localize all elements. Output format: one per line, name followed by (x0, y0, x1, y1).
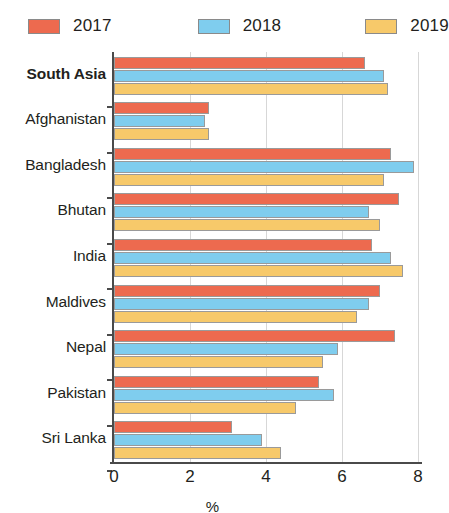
tickmark (107, 243, 112, 245)
legend-label-2018: 2018 (243, 16, 282, 36)
bar (114, 128, 209, 140)
bar (114, 330, 395, 342)
bar-group (114, 52, 418, 98)
category-axis-labels: South AsiaAfghanistanBangladeshBhutanInd… (0, 52, 110, 462)
bar-group (114, 325, 418, 371)
bar (114, 311, 357, 323)
bar (114, 376, 319, 388)
bar-group (114, 143, 418, 189)
bar (114, 402, 296, 414)
x-axis-line (110, 462, 422, 464)
bar (114, 83, 388, 95)
category-label: Bangladesh (0, 156, 106, 174)
category-label: South Asia (0, 65, 106, 83)
bar (114, 206, 369, 218)
bar (114, 252, 391, 264)
bar (114, 285, 380, 297)
legend-item-2017: 2017 (28, 16, 112, 36)
y-axis-line (112, 52, 114, 463)
tickmark (107, 379, 112, 381)
tickmark (107, 334, 112, 336)
bar-group (114, 371, 418, 417)
bar (114, 102, 209, 114)
chart-legend: 2017 2018 2019 (0, 0, 425, 52)
bar (114, 298, 369, 310)
tickmark (107, 152, 112, 154)
bar (114, 389, 334, 401)
tickmark (107, 106, 112, 108)
bar (114, 115, 205, 127)
bar-group (114, 189, 418, 235)
bar (114, 421, 232, 433)
bar (114, 57, 365, 69)
bar (114, 239, 372, 251)
x-axis-tick-labels: 02468 (0, 467, 425, 497)
category-label: Maldives (0, 293, 106, 311)
bar (114, 161, 414, 173)
legend-swatch-2018 (198, 19, 230, 34)
category-label: Pakistan (0, 384, 106, 402)
bar (114, 447, 281, 459)
tickmark (107, 197, 112, 199)
bar (114, 70, 384, 82)
legend-label-2019: 2019 (410, 16, 449, 36)
x-tick-label: 6 (337, 467, 346, 487)
category-label: Afghanistan (0, 110, 106, 128)
bar (114, 174, 384, 186)
bar (114, 356, 323, 368)
x-tick-label: 2 (185, 467, 194, 487)
x-tick-label: 8 (413, 467, 422, 487)
x-axis-title: % (0, 498, 425, 513)
category-label: Bhutan (0, 201, 106, 219)
tickmark (107, 288, 112, 290)
bar (114, 148, 391, 160)
tickmark (107, 425, 112, 427)
bar (114, 434, 262, 446)
x-tick-label: 4 (261, 467, 270, 487)
legend-item-2019: 2019 (365, 16, 449, 36)
gridline (418, 52, 419, 462)
category-label: Sri Lanka (0, 429, 106, 447)
category-label: Nepal (0, 338, 106, 356)
bar-group (114, 234, 418, 280)
legend-swatch-2019 (365, 19, 397, 34)
bar (114, 343, 338, 355)
bar-group (114, 416, 418, 462)
x-tick-label: 0 (109, 467, 118, 487)
legend-item-2018: 2018 (198, 16, 282, 36)
plot-area: South AsiaAfghanistanBangladeshBhutanInd… (0, 52, 425, 513)
bar (114, 219, 380, 231)
bar-group (114, 280, 418, 326)
bars-layer (114, 52, 418, 462)
bar-group (114, 98, 418, 144)
bar (114, 265, 403, 277)
legend-swatch-2017 (28, 19, 60, 34)
legend-label-2017: 2017 (73, 16, 112, 36)
category-label: India (0, 247, 106, 265)
bar (114, 193, 399, 205)
